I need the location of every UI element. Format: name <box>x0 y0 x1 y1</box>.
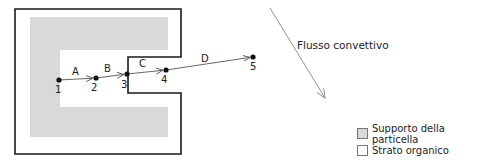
support-swatch <box>357 128 368 139</box>
segment-label-c: C <box>139 58 146 69</box>
point-2 <box>93 75 98 80</box>
organic-swatch <box>357 145 368 156</box>
point-1 <box>56 77 61 82</box>
convective-flow-arrow <box>270 8 325 98</box>
point-label-4: 4 <box>161 74 167 85</box>
segment-label-d: D <box>201 53 209 64</box>
legend-label-organic: Strato organico <box>372 145 449 156</box>
diffusion-path <box>59 57 250 80</box>
particle-support <box>30 17 168 137</box>
segment-b <box>96 74 124 78</box>
legend-item-support: Supporto della particella <box>357 125 493 142</box>
point-label-1: 1 <box>55 84 61 95</box>
segment-c <box>127 70 163 74</box>
convective-flow-label: Flusso convettivo <box>297 39 389 51</box>
segment-label-a: A <box>72 66 79 77</box>
point-label-2: 2 <box>91 82 97 93</box>
legend: Supporto della particella Strato organic… <box>357 125 493 159</box>
legend-label-support: Supporto della particella <box>372 123 493 145</box>
legend-item-organic: Strato organico <box>357 142 493 159</box>
segment-a <box>59 78 93 80</box>
point-4 <box>163 67 168 72</box>
segment-label-b: B <box>104 63 111 74</box>
point-5 <box>250 54 255 59</box>
point-label-5: 5 <box>250 61 256 72</box>
point-3 <box>124 71 129 76</box>
point-label-3: 3 <box>121 79 127 90</box>
